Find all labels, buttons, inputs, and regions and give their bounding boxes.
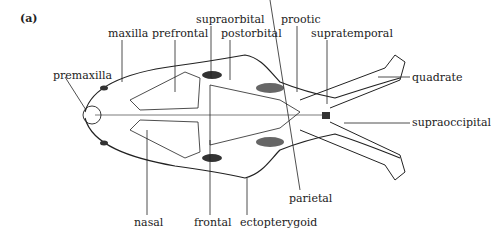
label-maxilla: maxilla (108, 28, 148, 39)
skull-outline-upper (85, 55, 400, 112)
label-ectopterygoid: ectopterygoid (240, 217, 317, 228)
label-quadrate: quadrate (412, 72, 462, 83)
label-supraorbital: supraorbital (196, 14, 265, 25)
label-prootic: prootic (281, 14, 321, 25)
skull-outline-lower (85, 118, 400, 178)
label-parietal: parietal (289, 193, 332, 204)
label-nasal: nasal (134, 217, 163, 228)
label-supratemporal: supratemporal (311, 28, 393, 39)
label-postorbital: postorbital (221, 28, 282, 39)
label-prefrontal: prefrontal (152, 28, 208, 39)
label-premaxilla: premaxilla (53, 70, 112, 81)
label-supraoccipital: supraoccipital (412, 117, 491, 128)
label-frontal: frontal (194, 217, 232, 228)
